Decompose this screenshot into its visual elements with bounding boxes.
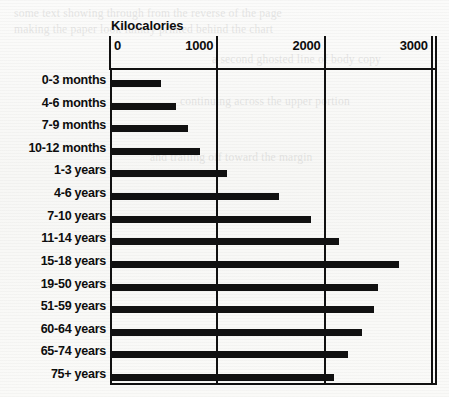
y-axis-category-label: 4-6 years	[2, 186, 106, 200]
bar-chart: Kilocalories 0100020003000 0-3 months4-6…	[0, 0, 449, 397]
y-axis-category-label: 11-14 years	[2, 231, 106, 245]
x-axis-tick-label: 1000	[175, 38, 213, 53]
bar	[110, 306, 374, 313]
y-axis-category-label: 15-18 years	[2, 254, 106, 268]
y-axis-category-label: 19-50 years	[2, 277, 106, 291]
y-axis-category-label: 7-10 years	[2, 209, 106, 223]
axis-tick-mark	[216, 36, 218, 70]
y-axis-category-labels: 0-3 months4-6 months7-9 months10-12 mont…	[0, 0, 106, 397]
y-axis-category-label: 60-64 years	[2, 322, 106, 336]
bar	[110, 193, 279, 200]
chart-title: Kilocalories	[111, 18, 184, 33]
y-axis-category-label: 75+ years	[2, 367, 106, 381]
y-axis-category-label: 4-6 months	[2, 96, 106, 110]
axis-tick-mark	[324, 36, 326, 70]
bar	[110, 103, 176, 110]
x-axis-tick-label: 0	[114, 38, 121, 53]
bar	[110, 148, 200, 155]
bar	[110, 329, 362, 336]
bar	[110, 284, 378, 291]
y-axis-category-label: 10-12 months	[2, 141, 106, 155]
x-axis-tick-label: 3000	[390, 38, 428, 53]
bar	[110, 261, 399, 268]
bar	[110, 80, 161, 87]
y-axis-category-label: 7-9 months	[2, 118, 106, 132]
bar	[110, 216, 311, 223]
bar	[110, 170, 227, 177]
y-axis-category-label: 0-3 months	[2, 73, 106, 87]
y-axis-category-label: 1-3 years	[2, 163, 106, 177]
plot-area	[110, 68, 437, 385]
axis-tick-mark	[431, 36, 433, 70]
y-axis-category-label: 65-74 years	[2, 344, 106, 358]
bar	[110, 238, 339, 245]
y-axis-category-label: 51-59 years	[2, 299, 106, 313]
axis-tick-mark	[109, 36, 111, 70]
bar	[110, 374, 334, 381]
bar	[110, 351, 348, 358]
bar	[110, 125, 188, 132]
axis-tick-mark	[435, 36, 437, 70]
x-axis-tick-label: 2000	[283, 38, 321, 53]
